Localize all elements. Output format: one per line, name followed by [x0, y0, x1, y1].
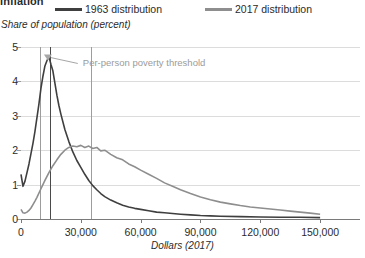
- poverty-distribution-chart: inflation 1963 distribution 2017 distrib…: [0, 0, 365, 258]
- annotation-leader-line: [0, 0, 365, 258]
- poverty-threshold-annotation: Per-person poverty threshold: [83, 57, 206, 68]
